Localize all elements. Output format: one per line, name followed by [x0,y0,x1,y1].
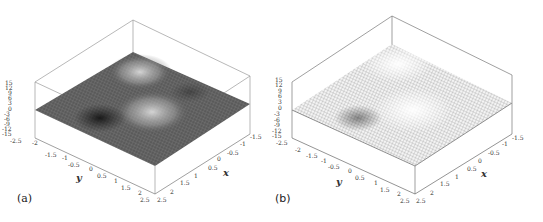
panel-label-a: (a) [17,192,32,205]
svg-text:-15: -15 [2,130,12,137]
svg-text:-15: -15 [272,132,282,139]
svg-text:-0.5: -0.5 [68,161,80,168]
svg-text:2: 2 [170,188,174,195]
svg-text:2: 2 [397,190,401,197]
svg-text:x: x [480,168,488,179]
svg-text:-1.5: -1.5 [250,133,262,140]
svg-text:1.5: 1.5 [380,186,390,193]
svg-text:0.5: 0.5 [208,164,218,171]
svg-text:-1: -1 [321,157,327,164]
svg-text:x: x [222,167,230,178]
surface-plot-b: 15 12 9 6 3 0 -3 -6 -9 -12 -15 -2.5 -2 -… [270,0,543,222]
svg-text:2.5: 2.5 [416,197,426,204]
panel-b: 15 12 9 6 3 0 -3 -6 -9 -12 -15 -2.5 -2 -… [270,0,543,222]
svg-text:-0.5: -0.5 [488,149,500,156]
svg-text:2.5: 2.5 [400,197,410,204]
z-axis: 15 12 9 6 3 0 -3 -6 -9 -12 -15 [2,79,13,137]
svg-text:0.5: 0.5 [355,174,365,181]
svg-text:-2: -2 [32,139,38,146]
svg-text:-0.5: -0.5 [328,163,340,170]
svg-text:0: 0 [89,165,93,172]
svg-text:1.5: 1.5 [440,180,450,187]
surface-plot-a: 15 12 9 6 3 0 -3 -6 -9 -12 -15 -2.5 -2 -… [0,0,270,222]
svg-text:-1.5: -1.5 [512,134,524,141]
svg-text:-2.5: -2.5 [10,137,22,144]
svg-text:-0.5: -0.5 [227,149,239,156]
svg-text:-1.5: -1.5 [45,151,57,158]
svg-text:y: y [75,172,83,183]
svg-text:0: 0 [348,167,352,174]
svg-text:1: 1 [114,177,118,184]
svg-text:2: 2 [138,189,142,196]
svg-text:0: 0 [217,155,221,162]
svg-text:-1: -1 [502,140,508,147]
svg-text:0: 0 [478,157,482,164]
svg-text:-1.5: -1.5 [306,152,318,159]
panel-a: 15 12 9 6 3 0 -3 -6 -9 -12 -15 -2.5 -2 -… [0,0,270,222]
svg-text:1: 1 [455,173,459,180]
svg-text:0.5: 0.5 [97,172,107,179]
svg-text:1.5: 1.5 [121,184,131,191]
svg-text:1: 1 [194,172,198,179]
svg-text:0.5: 0.5 [467,165,477,172]
panel-label-b: (b) [275,192,291,205]
svg-text:1.5: 1.5 [180,179,190,186]
svg-text:2.5: 2.5 [140,196,150,203]
svg-text:2.5: 2.5 [157,196,167,203]
svg-text:-2: -2 [295,146,301,153]
svg-text:-1: -1 [240,140,246,147]
svg-text:1: 1 [374,179,378,186]
svg-text:-2.5: -2.5 [276,139,288,146]
svg-text:2: 2 [430,189,434,196]
svg-text:y: y [335,176,343,187]
svg-text:-1: -1 [62,154,68,161]
z-axis: 15 12 9 6 3 0 -3 -6 -9 -12 -15 [272,76,283,139]
